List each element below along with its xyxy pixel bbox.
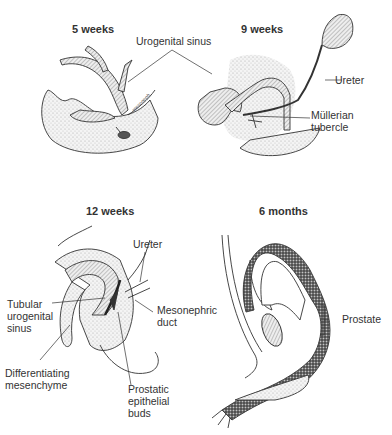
label-differentiating-mesenchyme: Differentiating mesenchyme: [5, 367, 70, 391]
label-line: tubercle: [311, 121, 354, 133]
label-line: buds: [128, 407, 169, 419]
label-line: Mesonephric: [157, 304, 217, 316]
label-line: urogenital: [7, 310, 53, 322]
label-line: duct: [157, 316, 217, 328]
label-line: Prostatic: [128, 383, 169, 395]
panel-title-12-weeks: 12 weeks: [86, 205, 134, 217]
panel-title-5-weeks: 5 weeks: [72, 23, 114, 35]
panel-title-9-weeks: 9 weeks: [241, 23, 283, 35]
label-line: Tubular: [7, 298, 53, 310]
label-prostatic-epithelial-buds: Prostatic epithelial buds: [128, 383, 169, 419]
label-mullerian-tubercle: Müllerian tubercle: [311, 109, 354, 133]
label-ureter-9-weeks: Ureter: [335, 74, 364, 86]
label-line: epithelial: [128, 395, 169, 407]
label-line: Müllerian: [311, 109, 354, 121]
panel-title-6-months: 6 months: [259, 205, 308, 217]
panel-9-weeks-drawing: [198, 14, 353, 155]
label-line: mesenchyme: [5, 379, 70, 391]
urogenital-sinus-pointer: [128, 50, 212, 82]
label-urogenital-sinus: Urogenital sinus: [136, 35, 211, 47]
label-ureter-12-weeks: Ureter: [133, 238, 162, 250]
label-line: Differentiating: [5, 367, 70, 379]
label-mesonephric-duct: Mesonephric duct: [157, 304, 217, 328]
panel-6-months-drawing: [212, 235, 330, 428]
label-prostate: Prostate: [342, 313, 381, 325]
label-line: sinus: [7, 322, 53, 334]
label-tubular-urogenital-sinus: Tubular urogenital sinus: [7, 298, 53, 334]
panel-5-weeks-drawing: mesoneph.: [42, 46, 158, 153]
